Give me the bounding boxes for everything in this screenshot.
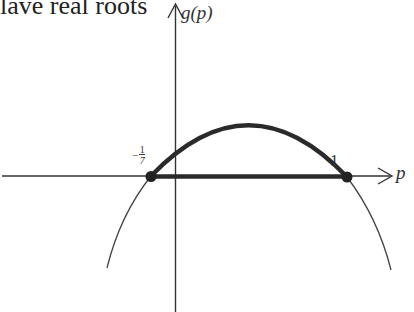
left-root-fraction: 1 7 <box>139 145 145 165</box>
parabola-right-tail <box>347 177 391 270</box>
p-axis-label: p <box>396 162 406 184</box>
parabola-left-tail <box>107 176 151 268</box>
diagram-canvas <box>0 0 414 312</box>
right-root-label: 1 <box>330 151 339 171</box>
left-root-denominator: 7 <box>140 156 145 165</box>
right-root-dot <box>342 172 353 183</box>
left-root-label: − 1 7 <box>132 145 145 165</box>
left-root-sign: − <box>132 150 138 160</box>
g-axis-label: g(p) <box>181 2 213 24</box>
left-root-numerator: 1 <box>140 145 145 154</box>
left-root-dot <box>146 171 157 182</box>
parabola-positive-arc <box>151 125 347 177</box>
parabola-diagram: lave real roots g(p) p − 1 7 1 <box>0 0 414 312</box>
caption-text: lave real roots <box>0 0 147 21</box>
